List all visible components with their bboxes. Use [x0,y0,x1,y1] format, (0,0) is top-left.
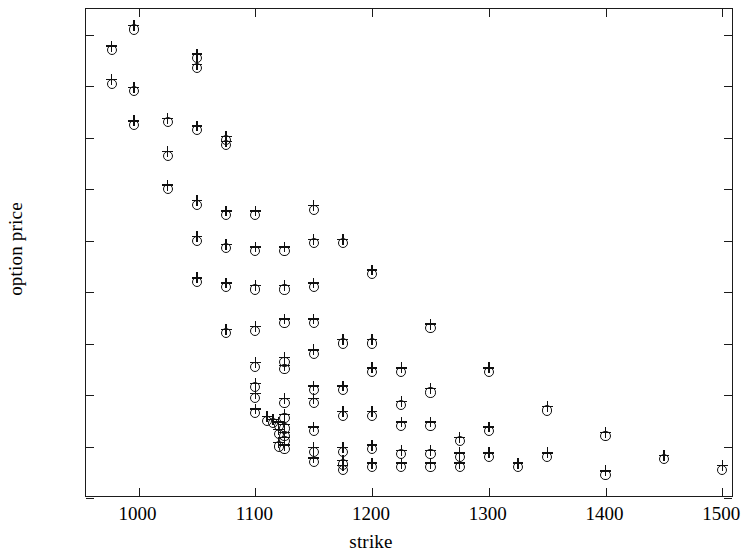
x-tick-mark [372,9,373,17]
y-tick-mark [86,395,94,396]
x-tick-label: 1000 [98,504,178,523]
x-axis-label: strike [0,531,742,553]
x-tick-mark [372,488,373,496]
x-tick-mark [722,488,723,496]
plot-area [85,8,733,497]
x-tick-label: 1100 [214,504,294,523]
x-tick-mark [606,9,607,17]
x-tick-mark [255,9,256,17]
y-tick-mark [724,292,732,293]
y-tick-mark [86,292,94,293]
y-tick-mark [86,138,94,139]
x-tick-label: 1200 [331,504,411,523]
x-tick-mark [139,488,140,496]
x-tick-label: 1500 [681,504,742,523]
y-tick-mark [724,241,732,242]
y-tick-mark [86,344,94,345]
x-tick-mark [722,9,723,17]
y-axis-label: option price [5,189,27,309]
y-tick-mark [724,138,732,139]
y-tick-mark [724,344,732,345]
x-tick-mark [139,9,140,17]
x-tick-mark [255,488,256,496]
y-tick-mark [86,86,94,87]
x-tick-mark [489,488,490,496]
x-tick-label: 1300 [448,504,528,523]
y-tick-mark [86,498,94,499]
scatter-plot-figure: option price strike 02040608010012014016… [0,0,742,560]
x-tick-label: 1400 [565,504,645,523]
y-tick-mark [86,189,94,190]
y-tick-mark [724,35,732,36]
y-tick-mark [724,447,732,448]
y-tick-mark [86,35,94,36]
y-tick-mark [86,447,94,448]
y-tick-mark [724,498,732,499]
y-tick-mark [724,86,732,87]
y-tick-mark [724,189,732,190]
y-tick-mark [724,395,732,396]
y-tick-mark [86,241,94,242]
x-tick-mark [489,9,490,17]
x-tick-mark [606,488,607,496]
